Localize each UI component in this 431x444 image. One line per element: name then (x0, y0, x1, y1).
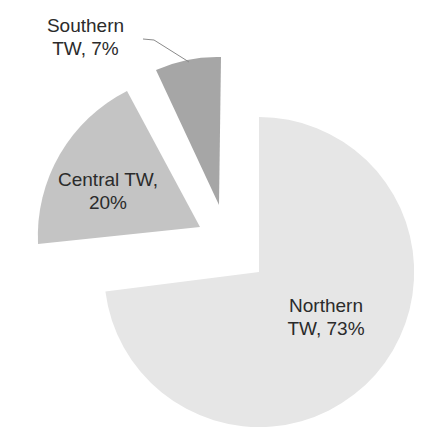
label-line: Northern (270, 294, 382, 317)
label-line: Southern (28, 14, 143, 37)
label-southern-tw: Southern TW, 7% (28, 14, 143, 60)
leader-line-southern (143, 39, 189, 62)
label-northern-tw: Northern TW, 73% (270, 294, 382, 340)
pie-chart (0, 0, 431, 444)
label-line: 20% (38, 191, 178, 214)
label-line: TW, 73% (270, 317, 382, 340)
label-line: TW, 7% (28, 37, 143, 60)
label-central-tw: Central TW, 20% (38, 168, 178, 214)
label-line: Central TW, (38, 168, 178, 191)
